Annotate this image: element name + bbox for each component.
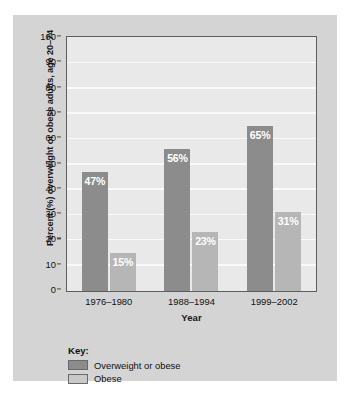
y-axis-tick-label: 60 bbox=[46, 132, 56, 143]
figure-root: Percent (%) overweight or obese adults, … bbox=[0, 0, 349, 396]
y-axis-tick-mark bbox=[57, 35, 61, 36]
y-axis-tick-mark bbox=[57, 61, 61, 62]
bar-value-label: 31% bbox=[275, 215, 301, 227]
bar-value-label: 65% bbox=[247, 129, 273, 141]
chart-card-panel: Percent (%) overweight or obese adults, … bbox=[13, 15, 337, 381]
x-axis-tick-labels: 1976–19801988–19941999–2002 bbox=[68, 296, 316, 310]
y-axis-tick-label: 30 bbox=[46, 208, 56, 219]
y-axis-tick-label: 100 bbox=[40, 31, 56, 42]
bar-value-label: 47% bbox=[82, 175, 108, 187]
y-axis-tick-label: 40 bbox=[46, 182, 56, 193]
y-axis-tick-label: 90 bbox=[46, 56, 56, 67]
bar[interactable]: 65% bbox=[247, 126, 273, 290]
y-axis-tick-label: 50 bbox=[46, 157, 56, 168]
y-axis-tick-mark bbox=[57, 288, 61, 289]
bar[interactable]: 56% bbox=[164, 149, 190, 291]
bar[interactable]: 47% bbox=[82, 172, 108, 291]
bar-value-label: 15% bbox=[110, 256, 136, 268]
x-axis-tick-label: 1988–1994 bbox=[150, 296, 233, 307]
y-axis-tick-label: 80 bbox=[46, 81, 56, 92]
legend-items: Overweight or obeseObese bbox=[68, 360, 181, 385]
bar-group: 56%23% bbox=[150, 38, 233, 291]
y-axis-tick-label: 70 bbox=[46, 106, 56, 117]
bar-group: 65%31% bbox=[233, 38, 316, 291]
legend-swatch-light bbox=[68, 374, 88, 384]
y-axis-tick-mark bbox=[57, 111, 61, 112]
legend-swatch-dark bbox=[68, 360, 88, 370]
y-axis-tick-mark bbox=[57, 187, 61, 188]
legend-title: Key: bbox=[68, 345, 181, 356]
y-axis-tick-label: 10 bbox=[46, 258, 56, 269]
legend-item[interactable]: Overweight or obese bbox=[68, 360, 181, 371]
legend-item-label: Overweight or obese bbox=[94, 360, 181, 371]
y-axis-tick-mark bbox=[57, 238, 61, 239]
bar[interactable]: 31% bbox=[275, 212, 301, 290]
legend-item[interactable]: Obese bbox=[68, 373, 181, 384]
y-axis-tick-mark bbox=[57, 86, 61, 87]
bar[interactable]: 23% bbox=[192, 232, 218, 290]
chart-legend: Key: Overweight or obeseObese bbox=[68, 345, 181, 387]
y-axis-tick-mark bbox=[57, 162, 61, 163]
y-axis-tick-label: 0 bbox=[51, 284, 56, 295]
bar-group: 47%15% bbox=[68, 38, 151, 291]
x-axis-tick-label: 1999–2002 bbox=[233, 296, 316, 307]
y-axis-tick-mark bbox=[57, 137, 61, 138]
bar-value-label: 23% bbox=[192, 235, 218, 247]
y-axis-tick-labels: 0102030405060708090100 bbox=[27, 36, 61, 292]
x-axis-tick-label: 1976–1980 bbox=[68, 296, 151, 307]
bar-value-label: 56% bbox=[164, 152, 190, 164]
bar[interactable]: 15% bbox=[110, 253, 136, 291]
bars-layer: 47%15%56%23%65%31% bbox=[68, 38, 316, 291]
legend-item-label: Obese bbox=[94, 373, 122, 384]
y-axis-tick-mark bbox=[57, 263, 61, 264]
x-axis-title: Year bbox=[68, 312, 316, 323]
y-axis-tick-label: 20 bbox=[46, 233, 56, 244]
y-axis-tick-mark bbox=[57, 213, 61, 214]
